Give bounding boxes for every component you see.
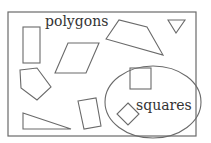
inverted-triangle-shape [168, 20, 185, 33]
polygons-label: polygons [45, 13, 108, 29]
pentagon-shape [20, 68, 51, 100]
polygons-diagram: polygons squares [0, 0, 211, 143]
squares-label: squares [136, 97, 192, 113]
slanted-quadrilateral-shape [78, 98, 101, 129]
square-shape [130, 68, 151, 89]
parallelogram-shape [55, 43, 99, 73]
irregular-quadrilateral-shape [106, 20, 163, 55]
right-triangle-shape [23, 113, 71, 129]
tall-rectangle-shape [23, 27, 40, 63]
